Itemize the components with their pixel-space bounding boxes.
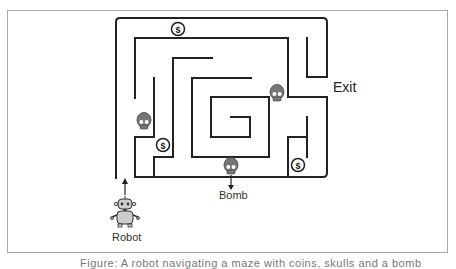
skull-icon (137, 113, 151, 130)
svg-text:$: $ (295, 161, 300, 171)
figure-caption: Figure: A robot navigating a maze with c… (80, 257, 380, 269)
maze-walls (116, 18, 327, 178)
coin-icon: $ (292, 159, 305, 172)
robot-label: Robot (112, 231, 141, 243)
svg-text:$: $ (160, 141, 165, 151)
exit-label: Exit (333, 79, 356, 95)
coin-icon: $ (172, 23, 185, 36)
skull-icon (270, 85, 284, 102)
robot-icon (110, 196, 139, 227)
bomb-label: Bomb (219, 189, 248, 201)
svg-text:$: $ (175, 25, 180, 35)
robot-arrow-icon (122, 178, 128, 195)
bomb-skull-icon (224, 158, 238, 175)
coin-icon: $ (157, 139, 170, 152)
